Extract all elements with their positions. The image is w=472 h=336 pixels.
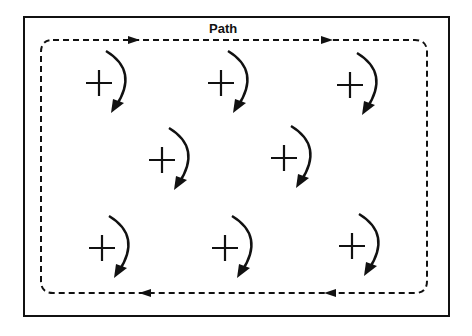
arrowhead-icon xyxy=(296,174,309,188)
arrowhead-icon xyxy=(111,99,124,113)
path-label: Path xyxy=(209,21,237,36)
arrowhead-icon xyxy=(114,264,127,278)
plus-charge-icon xyxy=(271,145,297,171)
plus-charge-icon xyxy=(208,70,234,96)
rotation-arrow-icon xyxy=(169,128,188,183)
plus-charge-icon xyxy=(339,233,365,259)
charge xyxy=(339,214,378,276)
charge xyxy=(86,51,125,113)
plus-charge-icon xyxy=(89,235,115,261)
plus-charge-icon xyxy=(337,72,363,98)
rotation-arrow-icon xyxy=(359,214,378,269)
plus-charge-icon xyxy=(86,70,112,96)
charge xyxy=(271,126,310,188)
plus-charge-icon xyxy=(149,147,175,173)
charge xyxy=(89,216,128,278)
plus-charge-icon xyxy=(212,235,238,261)
arrowhead-icon xyxy=(174,176,187,190)
charge xyxy=(149,128,188,190)
rotation-arrow-icon xyxy=(291,126,310,181)
charges-group xyxy=(86,51,378,278)
charge xyxy=(208,51,247,113)
path-arrow-right-icon xyxy=(128,36,140,44)
arrowhead-icon xyxy=(233,99,246,113)
rotation-arrow-icon xyxy=(106,51,125,106)
rotation-arrow-icon xyxy=(232,216,251,271)
arrowhead-icon xyxy=(364,262,377,276)
charge xyxy=(337,53,376,115)
outer-frame xyxy=(24,17,449,316)
arrowhead-icon xyxy=(362,101,375,115)
rotation-arrow-icon xyxy=(357,53,376,108)
rotation-arrow-icon xyxy=(109,216,128,271)
diagram-canvas xyxy=(0,0,472,336)
path-arrow-left-icon xyxy=(324,289,336,297)
charge xyxy=(212,216,251,278)
path-arrow-right-icon xyxy=(321,36,333,44)
rotation-arrow-icon xyxy=(228,51,247,106)
path-arrow-left-icon xyxy=(139,289,151,297)
arrowhead-icon xyxy=(237,264,250,278)
